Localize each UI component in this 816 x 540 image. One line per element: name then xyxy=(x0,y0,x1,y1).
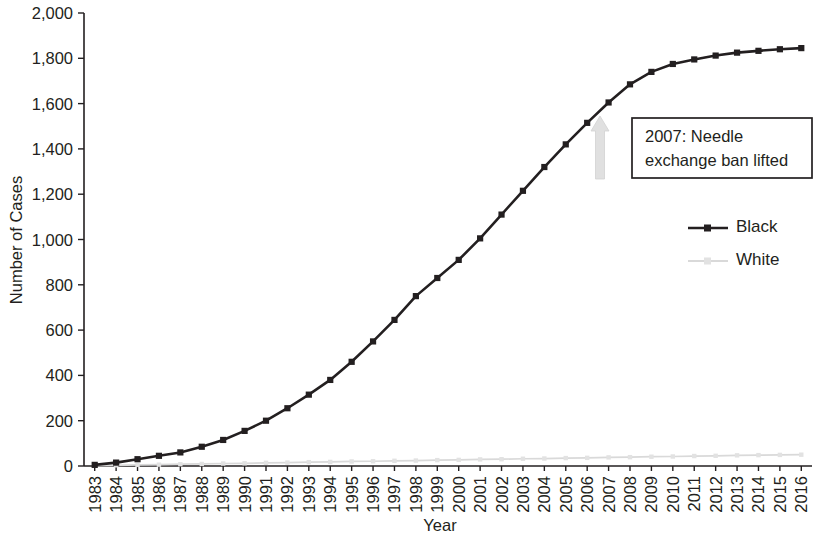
data-point xyxy=(585,456,589,460)
data-point xyxy=(178,462,182,466)
data-point xyxy=(135,463,139,467)
data-point xyxy=(457,458,461,462)
x-tick-label: 2005 xyxy=(557,476,575,513)
x-tick-label: 2004 xyxy=(535,476,553,513)
data-point xyxy=(605,99,611,105)
data-point xyxy=(200,462,204,466)
data-point xyxy=(413,293,419,299)
y-axis-title: Number of Cases xyxy=(7,176,25,304)
data-point xyxy=(391,317,397,323)
x-tick-label: 1986 xyxy=(150,476,168,513)
data-point xyxy=(156,453,162,459)
data-point xyxy=(456,257,462,263)
data-point xyxy=(628,455,632,459)
data-point xyxy=(563,141,569,147)
x-tick-label: 1996 xyxy=(364,476,382,513)
data-point xyxy=(285,460,289,464)
data-point xyxy=(264,461,268,465)
data-point xyxy=(670,61,676,67)
data-point xyxy=(798,45,804,51)
x-tick-label: 1997 xyxy=(385,476,403,513)
y-tick-label: 2,000 xyxy=(32,4,73,22)
line-chart: 02004006008001,0001,2001,4001,6001,8002,… xyxy=(0,0,816,540)
y-tick-label: 800 xyxy=(45,276,73,294)
data-point xyxy=(542,456,546,460)
data-point xyxy=(370,338,376,344)
x-tick-label: 2003 xyxy=(514,476,532,513)
x-tick-label: 2012 xyxy=(707,476,725,513)
x-tick-label: 1995 xyxy=(343,476,361,513)
y-tick-label: 400 xyxy=(45,366,73,384)
series-black-line xyxy=(95,48,802,465)
x-tick-label: 2011 xyxy=(685,476,703,511)
x-tick-label: 2001 xyxy=(471,476,489,513)
x-tick-label: 1992 xyxy=(278,476,296,513)
data-point xyxy=(777,46,783,52)
data-point xyxy=(735,453,739,457)
data-point xyxy=(564,456,568,460)
x-tick-label: 2016 xyxy=(792,476,810,513)
data-point xyxy=(778,453,782,457)
up-arrow-icon xyxy=(591,116,609,179)
annotation-needle-exchange: 2007: Needle exchange ban lifted xyxy=(591,116,812,179)
legend: Black White xyxy=(688,217,779,269)
y-tick-label: 0 xyxy=(64,457,73,475)
data-point xyxy=(113,460,119,466)
x-axis-group: 1983198419851986198719881989199019911992… xyxy=(84,466,812,534)
x-tick-label: 2008 xyxy=(621,476,639,513)
data-point xyxy=(306,392,312,398)
data-point xyxy=(541,164,547,170)
legend-label-white: White xyxy=(736,250,779,269)
data-point xyxy=(756,453,760,457)
legend-item-black[interactable]: Black xyxy=(688,217,778,236)
series-black-markers xyxy=(92,45,805,468)
data-point xyxy=(627,81,633,87)
x-tick-label: 1990 xyxy=(236,476,254,513)
x-tick-label: 2002 xyxy=(493,476,511,513)
x-tick-label: 2000 xyxy=(450,476,468,513)
x-tick-label: 2006 xyxy=(578,476,596,513)
chart-container: 02004006008001,0001,2001,4001,6001,8002,… xyxy=(0,0,816,540)
data-point xyxy=(220,437,226,443)
data-point xyxy=(520,188,526,194)
data-point xyxy=(648,69,654,75)
data-point xyxy=(755,48,761,54)
data-point xyxy=(498,211,504,217)
data-point xyxy=(713,454,717,458)
x-axis-tick-labels: 1983198419851986198719881989199019911992… xyxy=(86,476,811,513)
data-point xyxy=(134,456,140,462)
data-point xyxy=(349,459,353,463)
x-axis-title: Year xyxy=(423,516,457,534)
data-point xyxy=(477,235,483,241)
data-point xyxy=(177,449,183,455)
x-tick-label: 2015 xyxy=(771,476,789,513)
data-point xyxy=(328,460,332,464)
data-point xyxy=(671,454,675,458)
legend-label-black: Black xyxy=(736,217,778,236)
x-tick-label: 2013 xyxy=(728,476,746,513)
data-point xyxy=(434,275,440,281)
y-tick-label: 200 xyxy=(45,412,73,430)
data-point xyxy=(692,454,696,458)
data-point xyxy=(284,405,290,411)
x-tick-label: 1984 xyxy=(107,476,125,513)
x-tick-label: 1999 xyxy=(428,476,446,513)
data-point xyxy=(327,377,333,383)
y-tick-label: 1,600 xyxy=(32,95,73,113)
legend-item-white[interactable]: White xyxy=(688,250,779,269)
data-point xyxy=(521,457,525,461)
data-point xyxy=(649,455,653,459)
annotation-line-2: exchange ban lifted xyxy=(645,151,788,169)
data-point xyxy=(734,50,740,56)
data-point xyxy=(241,428,247,434)
data-point xyxy=(606,455,610,459)
y-axis-tick-labels: 02004006008001,0001,2001,4001,6001,8002,… xyxy=(32,4,73,475)
x-tick-label: 1991 xyxy=(257,476,275,513)
y-axis-group: 02004006008001,0001,2001,4001,6001,8002,… xyxy=(7,4,84,475)
y-axis-tick-marks xyxy=(78,13,84,466)
y-tick-label: 1,800 xyxy=(32,49,73,67)
series-black xyxy=(92,45,805,468)
data-point xyxy=(92,462,98,468)
x-tick-label: 1987 xyxy=(171,476,189,513)
data-point xyxy=(392,459,396,463)
